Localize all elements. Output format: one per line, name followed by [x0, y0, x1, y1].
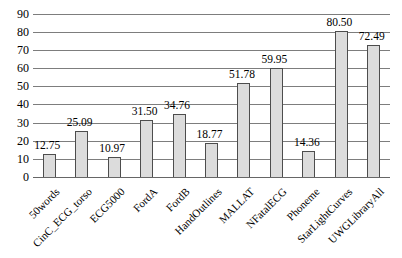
value-label: 14.36 — [285, 136, 329, 148]
bar-chart: 010203040506070809012.7550words25.09CinC… — [0, 0, 402, 258]
y-tick-label: 0 — [0, 171, 29, 183]
x-category-label: ECG5000 — [88, 186, 127, 225]
bar — [270, 68, 283, 177]
bar — [75, 131, 88, 177]
x-category-label: CinC_ECG_torso — [31, 186, 94, 249]
value-label: 25.09 — [58, 116, 102, 128]
bar — [43, 154, 56, 177]
y-tick-label: 90 — [0, 8, 29, 20]
value-label: 80.50 — [317, 16, 361, 28]
y-tick-label: 50 — [0, 80, 29, 92]
bar — [237, 83, 250, 177]
bar — [302, 151, 315, 177]
bar — [140, 120, 153, 177]
value-label: 59.95 — [252, 53, 296, 65]
y-tick-label: 10 — [0, 153, 29, 165]
value-label: 10.97 — [90, 142, 134, 154]
bar — [367, 45, 380, 177]
y-tick-label: 60 — [0, 62, 29, 74]
y-tick-label: 80 — [0, 26, 29, 38]
value-label: 34.76 — [155, 99, 199, 111]
y-tick-label: 70 — [0, 44, 29, 56]
bar — [173, 114, 186, 177]
value-label: 12.75 — [25, 139, 69, 151]
bar — [335, 31, 348, 177]
value-label: 51.78 — [220, 68, 264, 80]
x-axis-line — [33, 177, 390, 178]
x-category-label: FordB — [164, 186, 192, 214]
y-tick-label: 30 — [0, 117, 29, 129]
gridline — [33, 14, 390, 15]
x-category-label: FordA — [131, 186, 159, 214]
bar — [205, 143, 218, 177]
value-label: 18.77 — [188, 128, 232, 140]
y-tick-label: 40 — [0, 98, 29, 110]
bar — [108, 157, 121, 177]
value-label: 72.49 — [350, 30, 394, 42]
